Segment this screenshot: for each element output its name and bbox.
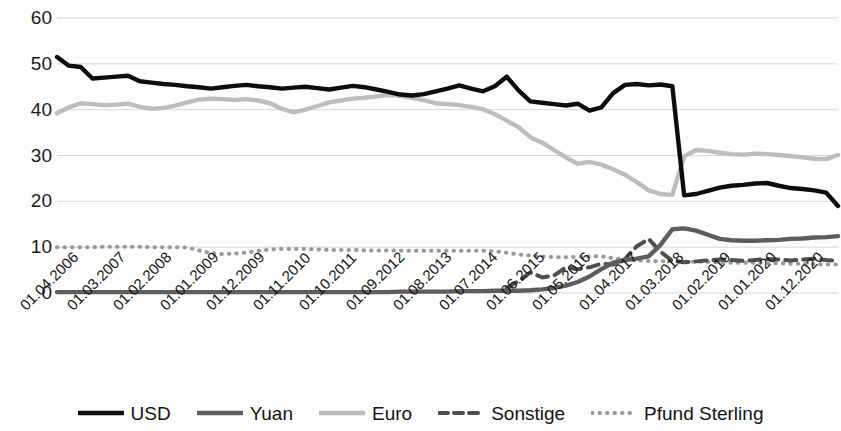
legend-label: USD xyxy=(131,404,171,423)
series-line-pfund-sterling xyxy=(57,247,838,265)
y-axis-tick-labels: 6050403020100 xyxy=(0,0,52,300)
y-axis-tick-label: 40 xyxy=(6,100,52,119)
y-axis-tick-label: 50 xyxy=(6,54,52,73)
y-axis-tick-label: 30 xyxy=(6,146,52,165)
legend-item-pfund-sterling[interactable]: Pfund Sterling xyxy=(591,404,763,423)
legend-item-yuan[interactable]: Yuan xyxy=(197,404,293,423)
legend-swatch-euro-icon xyxy=(319,406,365,420)
legend-swatch-pfund-sterling-icon xyxy=(591,406,637,420)
legend-label: Pfund Sterling xyxy=(644,404,763,423)
series-line-sonstige xyxy=(507,239,838,288)
legend-item-sonstige[interactable]: Sonstige xyxy=(438,404,565,423)
chart-legend: USDYuanEuroSonstigePfund Sterling xyxy=(0,398,841,428)
legend-item-usd[interactable]: USD xyxy=(78,404,171,423)
plot-area xyxy=(0,0,841,431)
y-axis-tick-label: 60 xyxy=(6,8,52,27)
legend-swatch-usd-icon xyxy=(78,406,124,420)
y-axis-tick-label: 0 xyxy=(6,283,52,302)
series-line-usd xyxy=(57,57,838,206)
currency-share-line-chart: 6050403020100 01.04.200601.03.200701.02.… xyxy=(0,0,841,431)
legend-swatch-sonstige-icon xyxy=(438,406,484,420)
y-axis-tick-label: 20 xyxy=(6,191,52,210)
legend-swatch-yuan-icon xyxy=(197,406,243,420)
y-axis-tick-label: 10 xyxy=(6,237,52,256)
series-lines xyxy=(57,57,838,292)
legend-label: Euro xyxy=(372,404,412,423)
legend-item-euro[interactable]: Euro xyxy=(319,404,412,423)
legend-label: Sonstige xyxy=(491,404,565,423)
legend-label: Yuan xyxy=(250,404,293,423)
